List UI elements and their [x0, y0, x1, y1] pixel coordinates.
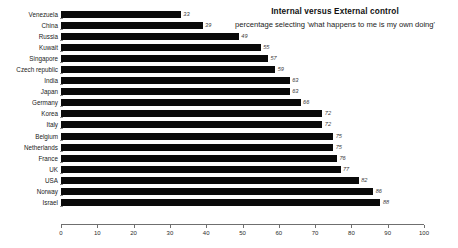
bar-fill	[61, 11, 181, 18]
category-label: Korea	[0, 108, 61, 119]
category-label: Venezuela	[0, 9, 61, 20]
bar-value-label: 75	[336, 132, 342, 141]
category-tick	[60, 62, 63, 63]
bar: 82	[61, 177, 359, 184]
x-axis-tick-line	[134, 225, 135, 228]
bar-fill	[61, 199, 380, 206]
bar-value-label: 55	[263, 43, 269, 52]
bar-value-label: 75	[336, 143, 342, 152]
bar-value-label: 66	[303, 98, 309, 107]
category-label: USA	[0, 175, 61, 186]
category-label: India	[0, 75, 61, 86]
category-tick	[60, 106, 63, 107]
bar: 33	[61, 11, 181, 18]
bar: 63	[61, 77, 290, 84]
category-label: Germany	[0, 97, 61, 108]
bar: 72	[61, 110, 322, 117]
category-tick	[60, 128, 63, 129]
category-label: Czech republic	[0, 64, 61, 75]
bar-row: Venezuela33	[0, 9, 458, 20]
plot-area: Venezuela33China39Russia49Kuwait55Singap…	[0, 9, 458, 215]
x-axis-tick-label: 40	[203, 229, 210, 237]
bar-value-label: 59	[278, 65, 284, 74]
bar-row: Czech republic59	[0, 64, 458, 75]
bar: 88	[61, 199, 380, 206]
x-axis-tick-line	[97, 225, 98, 228]
category-tick	[60, 40, 63, 41]
bar-fill	[61, 66, 275, 73]
category-label: Netherlands	[0, 142, 61, 153]
category-label: UK	[0, 164, 61, 175]
bar-row: UK77	[0, 164, 458, 175]
x-axis-tick-label: 70	[312, 229, 319, 237]
x-axis-tick-label: 30	[167, 229, 174, 237]
bar-row: Kuwait55	[0, 42, 458, 53]
bar: 49	[61, 33, 239, 40]
x-axis-tick-line	[170, 225, 171, 228]
bar-row: USA82	[0, 175, 458, 186]
bar: 63	[61, 88, 290, 95]
category-tick	[60, 206, 63, 207]
bar: 72	[61, 121, 322, 128]
bar-value-label: 63	[292, 87, 298, 96]
bar-row: Italy72	[0, 119, 458, 130]
bar: 55	[61, 44, 261, 51]
x-axis-tick-label: 0	[59, 229, 62, 237]
bar: 77	[61, 166, 341, 173]
bar-fill	[61, 144, 333, 151]
bar-row: Israel88	[0, 197, 458, 208]
category-label: Japan	[0, 86, 61, 97]
x-axis-tick-label: 80	[348, 229, 355, 237]
x-axis-tick-label: 50	[239, 229, 246, 237]
category-label: Italy	[0, 119, 61, 130]
bar-value-label: 82	[361, 176, 367, 185]
bar-row: Singapore57	[0, 53, 458, 64]
bar-row: Norway86	[0, 186, 458, 197]
category-label: Israel	[0, 197, 61, 208]
category-label: Russia	[0, 31, 61, 42]
bar-value-label: 33	[183, 10, 189, 19]
bar-value-label: 49	[241, 32, 247, 41]
bar-value-label: 63	[292, 76, 298, 85]
bar-fill	[61, 55, 268, 62]
bar-row: Japan63	[0, 86, 458, 97]
category-label: Norway	[0, 186, 61, 197]
bar-value-label: 86	[376, 187, 382, 196]
category-tick	[60, 140, 63, 141]
bar-row: France76	[0, 153, 458, 164]
bar-value-label: 76	[339, 154, 345, 163]
bar-value-label: 57	[270, 54, 276, 63]
category-label: France	[0, 153, 61, 164]
bar-fill	[61, 133, 333, 140]
bar-fill	[61, 121, 322, 128]
x-axis-tick-line	[243, 225, 244, 228]
bar-row: Russia49	[0, 31, 458, 42]
bar: 75	[61, 144, 333, 151]
category-label: Kuwait	[0, 42, 61, 53]
x-axis-tick-line	[61, 225, 62, 228]
chart-container: Internal versus External control percent…	[0, 0, 458, 248]
x-axis-tick-label: 100	[419, 229, 429, 237]
bar: 76	[61, 155, 337, 162]
x-axis-tick-line	[315, 225, 316, 228]
bar-rows: Venezuela33China39Russia49Kuwait55Singap…	[0, 9, 458, 208]
bar-row: Netherlands75	[0, 142, 458, 153]
bar-value-label: 88	[383, 198, 389, 207]
x-axis-tick-label: 60	[275, 229, 282, 237]
x-axis-tick-line	[206, 225, 207, 228]
bar-fill	[61, 22, 203, 29]
bar-value-label: 39	[205, 21, 211, 30]
category-tick	[60, 73, 63, 74]
bar: 59	[61, 66, 275, 73]
category-label: Singapore	[0, 53, 61, 64]
bar: 66	[61, 99, 301, 106]
x-axis-tick-line	[351, 225, 352, 228]
category-tick	[60, 18, 63, 19]
category-tick	[60, 117, 63, 118]
category-tick	[60, 151, 63, 152]
x-axis-tick-line	[388, 225, 389, 228]
category-tick	[60, 195, 63, 196]
bar: 57	[61, 55, 268, 62]
bar-value-label: 72	[325, 120, 331, 129]
category-tick	[60, 51, 63, 52]
